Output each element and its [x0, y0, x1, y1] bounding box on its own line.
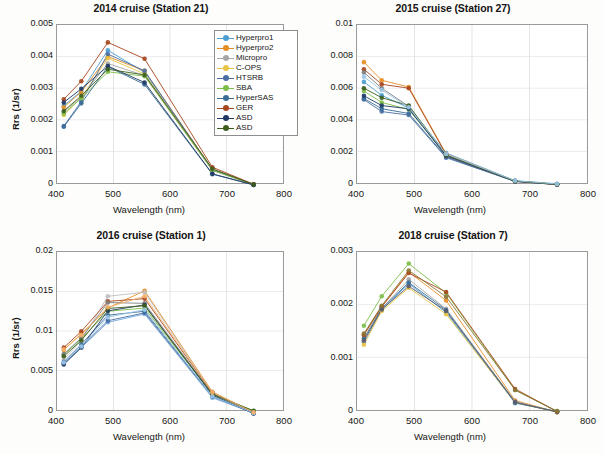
y-tick-label: 0.004 — [330, 114, 353, 124]
x-axis-label: Wavelength (nm) — [14, 204, 284, 215]
y-tick-label: 0.015 — [30, 285, 53, 295]
x-axis-label: Wavelength (nm) — [314, 431, 586, 442]
panel-title: 2016 cruise (Station 1) — [0, 229, 302, 241]
legend: Hyperpro1Hyperpro2MicroproC-OPSHTSRBSBAH… — [214, 30, 298, 136]
legend-label: HyperSAS — [236, 93, 273, 103]
plot-svg — [57, 252, 283, 410]
x-tick-label: 500 — [99, 415, 127, 426]
y-tick-label: 0.002 — [330, 298, 353, 308]
x-tick-label: 600 — [458, 415, 486, 426]
chart-panel-2015: 2015 cruise (Station 27) Wavelength (nm)… — [302, 0, 604, 227]
y-tick-label: 0 — [348, 405, 353, 415]
legend-marker-icon — [217, 103, 234, 113]
y-tick-label: 0 — [348, 178, 353, 188]
x-tick-label: 700 — [213, 415, 241, 426]
y-tick-label: 0 — [48, 178, 53, 188]
legend-marker-icon — [217, 43, 234, 53]
legend-marker-icon — [217, 113, 234, 123]
legend-item[interactable]: ASD — [217, 123, 294, 133]
legend-marker-icon — [217, 33, 234, 43]
legend-marker-icon — [217, 63, 234, 73]
panel-title: 2015 cruise (Station 27) — [302, 2, 604, 14]
y-tick-label: 0.005 — [30, 18, 53, 28]
x-tick-label: 500 — [400, 415, 428, 426]
legend-label: Hyperpro2 — [236, 43, 273, 53]
legend-label: SBA — [236, 83, 252, 93]
legend-marker-icon — [217, 93, 234, 103]
chart-panel-2014: 2014 cruise (Station 21) Rrs (1/sr) Wave… — [0, 0, 302, 227]
x-tick-label: 600 — [156, 415, 184, 426]
legend-item[interactable]: HTSRB — [217, 73, 294, 83]
legend-item[interactable]: ASD — [217, 113, 294, 123]
x-tick-label: 400 — [342, 188, 370, 199]
plot-svg — [357, 25, 587, 183]
x-tick-label: 400 — [42, 415, 70, 426]
x-tick-label: 600 — [458, 188, 486, 199]
panel-title: 2018 cruise (Station 7) — [302, 229, 604, 241]
y-tick-label: 0.001 — [330, 352, 353, 362]
x-tick-label: 700 — [516, 188, 544, 199]
y-tick-label: 0.002 — [30, 114, 53, 124]
x-tick-label: 400 — [42, 188, 70, 199]
legend-marker-icon — [217, 123, 234, 133]
y-tick-label: 0.001 — [30, 146, 53, 156]
legend-label: ASD — [236, 113, 252, 123]
legend-label: HTSRB — [236, 73, 263, 83]
x-tick-label: 400 — [342, 415, 370, 426]
legend-marker-icon — [217, 73, 234, 83]
y-tick-label: 0.003 — [330, 245, 353, 255]
y-tick-label: 0.006 — [330, 82, 353, 92]
legend-label: C-OPS — [236, 63, 261, 73]
x-tick-label: 700 — [213, 188, 241, 199]
x-tick-label: 800 — [270, 415, 298, 426]
plot-area — [56, 251, 284, 411]
y-tick-label: 0 — [48, 405, 53, 415]
legend-item[interactable]: Hyperpro1 — [217, 33, 294, 43]
plot-area — [356, 24, 588, 184]
y-tick-label: 0.008 — [330, 50, 353, 60]
x-axis-label: Wavelength (nm) — [14, 431, 284, 442]
legend-marker-icon — [217, 83, 234, 93]
y-axis-label: Rrs (1/sr) — [10, 317, 21, 359]
legend-label: Micropro — [236, 53, 267, 63]
plot-svg — [357, 252, 587, 410]
x-tick-label: 500 — [99, 188, 127, 199]
x-tick-label: 700 — [516, 415, 544, 426]
legend-label: ASD — [236, 123, 252, 133]
y-tick-label: 0.01 — [35, 325, 53, 335]
x-tick-label: 600 — [156, 188, 184, 199]
legend-item[interactable]: GER — [217, 103, 294, 113]
legend-item[interactable]: Micropro — [217, 53, 294, 63]
plot-area — [356, 251, 588, 411]
x-tick-label: 800 — [574, 188, 602, 199]
legend-item[interactable]: HyperSAS — [217, 93, 294, 103]
x-tick-label: 500 — [400, 188, 428, 199]
y-tick-label: 0.01 — [335, 18, 353, 28]
legend-label: Hyperpro1 — [236, 33, 273, 43]
y-tick-label: 0.002 — [330, 146, 353, 156]
y-tick-label: 0.02 — [35, 245, 53, 255]
chart-panel-2016: 2016 cruise (Station 1) Rrs (1/sr) Wavel… — [0, 227, 302, 454]
x-axis-label: Wavelength (nm) — [314, 204, 586, 215]
legend-item[interactable]: C-OPS — [217, 63, 294, 73]
x-tick-label: 800 — [270, 188, 298, 199]
legend-marker-icon — [217, 53, 234, 63]
y-axis-label: Rrs (1/sr) — [10, 88, 21, 130]
chart-panel-2018: 2018 cruise (Station 7) Wavelength (nm) … — [302, 227, 604, 454]
legend-label: GER — [236, 103, 253, 113]
panel-title: 2014 cruise (Station 21) — [0, 2, 302, 14]
legend-item[interactable]: Hyperpro2 — [217, 43, 294, 53]
y-tick-label: 0.004 — [30, 50, 53, 60]
y-tick-label: 0.003 — [30, 82, 53, 92]
legend-item[interactable]: SBA — [217, 83, 294, 93]
x-tick-label: 800 — [574, 415, 602, 426]
figure-grid: 2014 cruise (Station 21) Rrs (1/sr) Wave… — [0, 0, 604, 454]
y-tick-label: 0.005 — [30, 365, 53, 375]
